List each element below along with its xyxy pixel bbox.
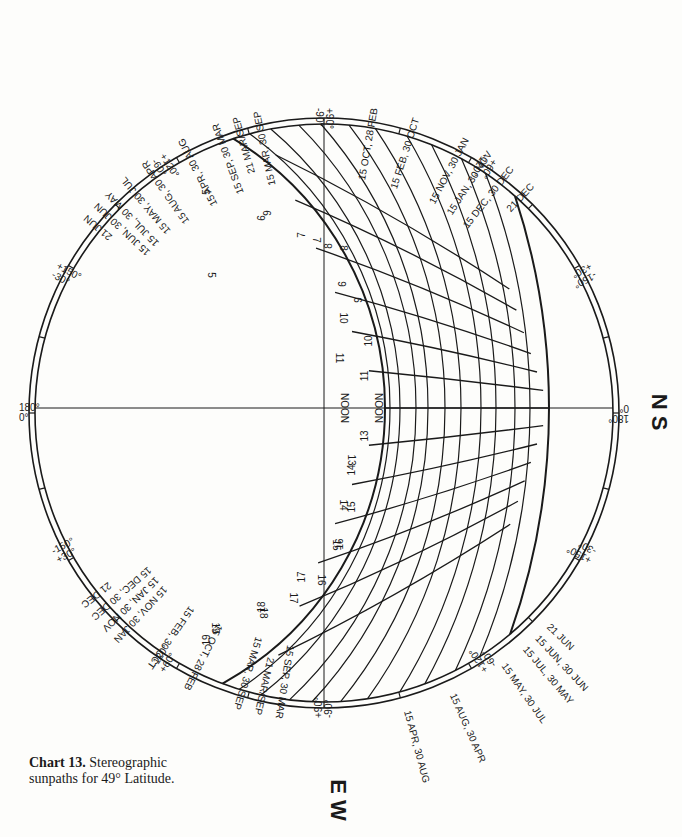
hour-label-inner: 13 xyxy=(359,430,370,442)
hour-label-inner: 11 xyxy=(359,370,370,381)
svg-text:-90°: -90° xyxy=(323,700,334,718)
hour-label-inner: 17 xyxy=(296,571,307,583)
hour-label-inner: 16 xyxy=(334,538,345,550)
hour-line xyxy=(318,481,525,563)
hour-line xyxy=(369,371,543,391)
sunpath-arc xyxy=(223,139,385,684)
hour-label-inner: 10 xyxy=(363,335,374,347)
svg-text:0°: 0° xyxy=(19,412,29,423)
hour-label-inner: 14 xyxy=(346,464,357,476)
hour-label: 13 xyxy=(346,454,357,466)
hour-label-inner: 7 xyxy=(296,232,307,238)
date-label: 15 OCT, 28 FEB xyxy=(356,107,380,181)
hour-label: NOON xyxy=(339,393,350,423)
hour-label-inner: 5 xyxy=(201,189,212,195)
caption-bold: Chart 13. xyxy=(29,755,86,770)
compass-letters: N S E W xyxy=(326,394,672,821)
sunpath-chart: +90°-90°+90°-90°+60°-120°+120°-60°+120°-… xyxy=(0,0,682,837)
sunpath-arc xyxy=(480,173,530,656)
chart-caption: Chart 13. Stereographic sunpaths for 49°… xyxy=(29,755,179,787)
hour-label: 8 xyxy=(338,245,349,251)
hour-label: 5 xyxy=(206,272,217,278)
hour-labels: 567891011NOON131415161718191918171615141… xyxy=(201,189,385,646)
hour-line xyxy=(295,200,516,310)
hour-label-inner: 6 xyxy=(256,215,267,221)
hour-label: 9 xyxy=(336,281,347,287)
hour-line xyxy=(278,524,510,655)
date-label: 15 APR, 30 AUG xyxy=(402,709,432,784)
azimuth-label: +90°-90° xyxy=(313,697,334,718)
azimuth-label: +150°-30° xyxy=(50,260,83,291)
date-label: 15 AUG, 30 APR xyxy=(448,692,488,765)
date-label: 21 DEC xyxy=(504,181,536,214)
hour-label-inner: 8 xyxy=(323,243,334,249)
azimuth-label: +150°-30° xyxy=(565,535,598,566)
hour-label-inner: 19 xyxy=(201,634,212,646)
hour-label: 19 xyxy=(210,622,221,634)
hour-label-inner: 9 xyxy=(353,297,364,303)
hour-label: 17 xyxy=(288,592,299,604)
hour-label: 7 xyxy=(311,237,322,243)
hour-label: 10 xyxy=(338,312,349,324)
hour-label-inner: 18 xyxy=(256,601,267,613)
compass-ew: E W xyxy=(326,779,351,821)
hour-label: 16 xyxy=(316,574,327,586)
svg-text:-90°: -90° xyxy=(314,108,325,126)
hour-label: 11 xyxy=(334,353,345,364)
hour-label-inner: 15 xyxy=(346,501,357,513)
sunpath-arc xyxy=(312,124,428,702)
azimuth-label: +90°-90° xyxy=(314,108,335,129)
date-label: 15 MAR, 30 SEP xyxy=(251,110,278,187)
svg-text:0°: 0° xyxy=(619,403,629,414)
hour-line xyxy=(369,426,543,446)
compass-ns: N S xyxy=(647,394,672,431)
hour-label-inner: NOON xyxy=(374,393,385,423)
